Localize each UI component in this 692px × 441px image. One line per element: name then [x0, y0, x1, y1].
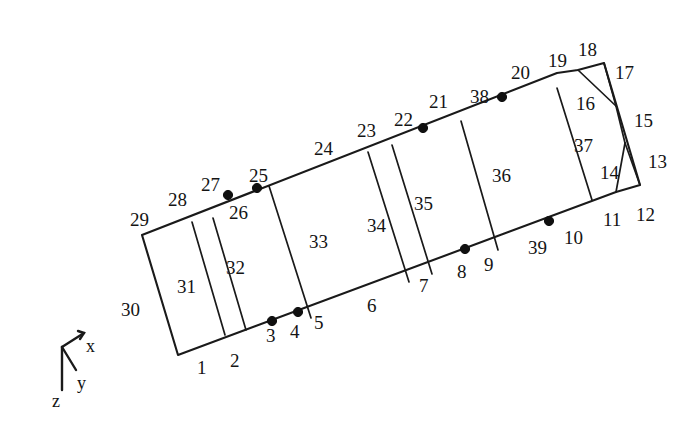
- label-1: 1: [197, 358, 207, 377]
- label-7: 7: [419, 276, 429, 295]
- node-26: [223, 190, 232, 199]
- label-39: 39: [528, 238, 547, 257]
- label-29: 29: [130, 210, 149, 229]
- arm-x: [62, 333, 84, 347]
- label-17: 17: [615, 63, 634, 82]
- label-12: 12: [636, 205, 655, 224]
- label-33: 33: [309, 232, 328, 251]
- label-20: 20: [511, 63, 530, 82]
- label-38: 38: [470, 87, 489, 106]
- label-30: 30: [121, 300, 140, 319]
- label-35: 35: [414, 194, 433, 213]
- node-4: [293, 307, 302, 316]
- label-21: 21: [429, 92, 448, 111]
- label-37: 37: [574, 136, 593, 155]
- arm-y: [62, 347, 76, 370]
- label-3: 3: [266, 326, 276, 345]
- label-2: 2: [230, 351, 240, 370]
- label-5: 5: [314, 313, 324, 332]
- label-24: 24: [314, 139, 333, 158]
- label-8: 8: [457, 262, 467, 281]
- label-26: 26: [229, 203, 248, 222]
- label-16: 16: [576, 94, 595, 113]
- label-13: 13: [648, 152, 667, 171]
- label-23: 23: [357, 121, 376, 140]
- label-19: 19: [548, 51, 567, 70]
- node-39: [544, 216, 553, 225]
- label-18: 18: [578, 40, 597, 59]
- label-28: 28: [168, 190, 187, 209]
- diagram-svg: [0, 0, 692, 441]
- label-11: 11: [603, 210, 621, 229]
- node-8: [460, 244, 469, 253]
- label-6: 6: [367, 296, 377, 315]
- label-27: 27: [201, 175, 220, 194]
- label-34: 34: [367, 216, 386, 235]
- axis-y-label: y: [77, 374, 86, 392]
- label-31: 31: [177, 277, 196, 296]
- label-4: 4: [290, 322, 300, 341]
- label-15: 15: [634, 111, 653, 130]
- label-9: 9: [484, 255, 494, 274]
- label-36: 36: [492, 166, 511, 185]
- plate-outline: [142, 63, 640, 355]
- axis-x-label: x: [86, 337, 95, 355]
- node-38: [497, 92, 506, 101]
- label-14: 14: [600, 163, 619, 182]
- diagram-canvas: 1234567891011121314151617181920212223242…: [0, 0, 692, 441]
- label-25: 25: [249, 166, 268, 185]
- plate-outline-polygon: [142, 63, 640, 355]
- axis-z-label: z: [52, 392, 60, 410]
- label-32: 32: [226, 258, 245, 277]
- label-10: 10: [564, 228, 583, 247]
- label-22: 22: [394, 110, 413, 129]
- node-22: [418, 123, 427, 132]
